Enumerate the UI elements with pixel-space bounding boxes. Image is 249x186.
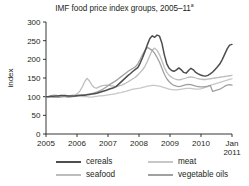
y-tick-label: 200 (27, 55, 41, 64)
y-tick-label: 250 (27, 37, 41, 46)
x-tick-label: 2005 (37, 139, 55, 148)
x-tick-label: 2006 (68, 139, 86, 148)
legend-item-cereals: cereals (56, 158, 112, 166)
legend-label-seafood: seafood (86, 171, 115, 179)
x-tick-label: 2008 (130, 139, 148, 148)
x-tick-label-last-month: Jan (226, 139, 239, 148)
legend-swatch-cereals (56, 161, 81, 163)
y-tick-label: 150 (27, 74, 41, 83)
legend-item-seafood: seafood (56, 171, 115, 179)
series-line-vegetable-oils (46, 47, 232, 97)
y-tick-label: 0 (36, 130, 41, 139)
legend-label-meat: meat (178, 158, 196, 166)
legend-label-vegetable-oils: vegetable oils (178, 171, 228, 179)
legend-item-meat: meat (148, 158, 196, 166)
y-axis-title: index (6, 68, 15, 87)
legend-swatch-seafood (56, 174, 81, 176)
legend-swatch-meat (148, 161, 173, 163)
series-line-meat (46, 79, 232, 97)
data-series-group (46, 35, 232, 97)
y-tick-label: 300 (27, 18, 41, 27)
y-tick-label: 100 (27, 93, 41, 102)
x-tick-label: 2007 (99, 139, 117, 148)
legend-swatch-vegetable-oils (148, 174, 173, 176)
x-tick-label: 2010 (192, 139, 210, 148)
legend-item-vegetable-oils: vegetable oils (148, 171, 228, 179)
y-tick-label: 50 (32, 111, 41, 120)
x-tick-label: 2009 (161, 139, 179, 148)
legend-label-cereals: cereals (86, 158, 112, 166)
chart-figure: IMF food price index groups, 2005–11a 05… (0, 0, 249, 186)
y-axis: 050100150200250300 (27, 18, 46, 139)
x-axis: 200520062007200820092010Jan2011 (37, 134, 241, 157)
chart-legend: cereals seafood meat vegetable oils (0, 156, 249, 186)
series-line-seafood (46, 48, 232, 97)
y-axis-title-text: index (6, 68, 15, 87)
